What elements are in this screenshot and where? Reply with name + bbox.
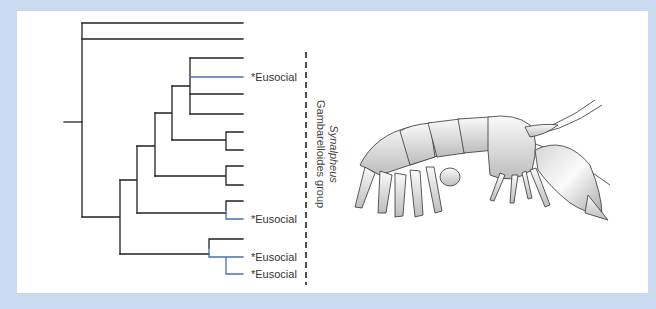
group-name-label: Gambarelloides group bbox=[314, 100, 327, 208]
eusocial-clade-14-15 bbox=[209, 248, 243, 274]
node-b bbox=[120, 146, 137, 213]
genus-label: Synalpheus bbox=[327, 100, 340, 208]
shrimp-illustration bbox=[340, 95, 620, 235]
eusocial-label: *Eusocial bbox=[251, 213, 297, 225]
eusocial-label: *Eusocial bbox=[251, 268, 297, 280]
node-a bbox=[82, 180, 120, 254]
eusocial-label: *Eusocial bbox=[251, 71, 297, 83]
node-d bbox=[155, 86, 172, 140]
clade-11-12 bbox=[137, 201, 243, 213]
clade-7-8 bbox=[172, 132, 243, 150]
eusocial-label: *Eusocial bbox=[251, 251, 297, 263]
node-c bbox=[137, 113, 155, 176]
clade-9-10 bbox=[155, 166, 243, 185]
group-label: Synalpheus Gambarelloides group bbox=[314, 100, 340, 208]
node-e bbox=[172, 58, 190, 114]
clade-c bbox=[120, 239, 243, 254]
eusocial-branch-12 bbox=[226, 210, 243, 219]
